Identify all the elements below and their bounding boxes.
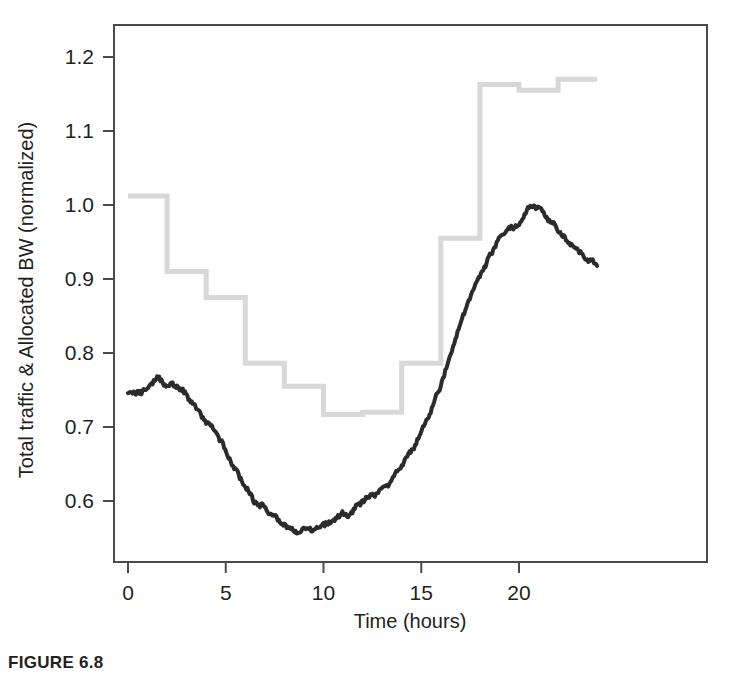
figure-container: 0.60.70.80.91.01.11.2 05101520 Time (hou… <box>0 0 731 685</box>
y-tick-label: 0.9 <box>65 267 94 290</box>
figure-caption: FIGURE 6.8 <box>8 653 104 673</box>
y-tick-label: 1.1 <box>65 119 94 142</box>
y-axis-title: Total traffic & Allocated BW (normalized… <box>15 122 37 478</box>
chart-background <box>0 0 731 685</box>
y-tick-label: 0.8 <box>65 341 94 364</box>
x-tick-label: 5 <box>220 581 232 604</box>
x-tick-label: 0 <box>122 581 134 604</box>
y-tick-label: 1.0 <box>65 193 94 216</box>
y-tick-label: 0.6 <box>65 489 94 512</box>
x-tick-label: 15 <box>410 581 433 604</box>
chart-plot: 0.60.70.80.91.01.11.2 05101520 Time (hou… <box>0 0 731 685</box>
y-tick-label: 1.2 <box>65 45 94 68</box>
x-tick-label: 20 <box>507 581 530 604</box>
x-tick-label: 10 <box>312 581 335 604</box>
y-tick-label: 0.7 <box>65 415 94 438</box>
x-axis-title: Time (hours) <box>354 610 467 632</box>
